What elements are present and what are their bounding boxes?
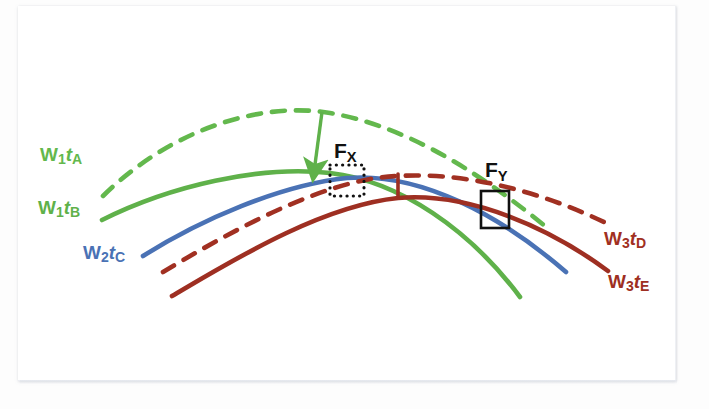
figure-page: W1tA W1tB W2tC W3tD W3tE FX FY [0, 0, 709, 409]
curve-label-w3td: W3tD [604, 229, 646, 250]
label-wsub-w3te: 3 [626, 278, 634, 294]
label-wsub-w3td: 3 [622, 235, 630, 251]
label-fsub-fy: Y [498, 168, 508, 184]
label-f-fy: F [485, 158, 498, 181]
label-w-w1ta: W [40, 144, 58, 165]
curve-w1tb [102, 171, 520, 297]
curve-label-w1tb: W1tB [38, 198, 80, 219]
label-w-w3td: W [604, 228, 622, 249]
curve-label-w1ta: W1tA [40, 145, 82, 166]
label-w-w1tb: W [38, 197, 56, 218]
green-arrow-annotation [314, 112, 322, 172]
label-tsub-w3td: D [636, 235, 646, 251]
label-tsub-w1ta: A [72, 151, 82, 167]
label-tsub-w3te: E [640, 278, 649, 294]
label-wsub-w1ta: 1 [58, 151, 66, 167]
label-f-fx: F [334, 139, 347, 162]
feature-label-fy: FY [485, 159, 508, 183]
label-tsub-w2tc: C [115, 249, 125, 265]
label-w-w2tc: W [83, 242, 101, 263]
label-tsub-w1tb: B [70, 204, 80, 220]
label-wsub-w1tb: 1 [56, 204, 64, 220]
label-w-w3te: W [608, 271, 626, 292]
label-fsub-fx: X [347, 149, 357, 165]
curve-w3te [172, 197, 608, 296]
curve-label-w2tc: W2tC [83, 243, 125, 264]
diagram-canvas [0, 0, 709, 409]
label-wsub-w2tc: 2 [101, 249, 109, 265]
curve-label-w3te: W3tE [608, 272, 649, 293]
feature-label-fx: FX [334, 140, 357, 164]
